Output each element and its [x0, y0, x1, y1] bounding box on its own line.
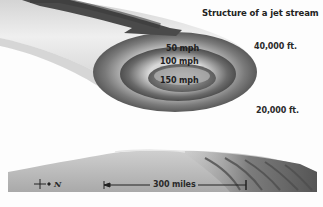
speed-label-100: 100 mph [160, 57, 199, 66]
compass-label: N [54, 179, 61, 189]
speed-label-50: 50 mph [166, 44, 199, 53]
scale-label: 300 miles [153, 180, 196, 189]
altitude-label-40000: 40,000 ft. [254, 42, 297, 51]
diagram-title: Structure of a jet stream [202, 8, 319, 18]
speed-label-150: 150 mph [160, 76, 199, 85]
diagram-artwork [0, 0, 323, 207]
jet-stream-diagram: Structure of a jet stream 40,000 ft. 20,… [0, 0, 323, 207]
altitude-label-20000: 20,000 ft. [256, 106, 299, 115]
